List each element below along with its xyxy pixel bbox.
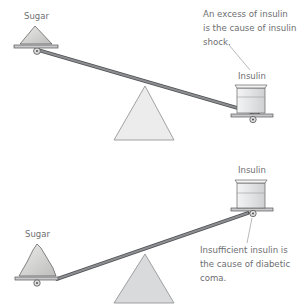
annotation-line: is the cause of insulin	[203, 23, 296, 33]
top-insulin-pan: Insulin	[231, 71, 273, 123]
annotation-line: shock.	[203, 37, 231, 47]
annotation-line: Insufficient insulin is	[200, 245, 288, 255]
bottom-fulcrum	[114, 254, 174, 303]
top-annotation: An excess of insulin is the cause of ins…	[203, 9, 296, 70]
insulin-sugar-balance-diagram: Sugar Insulin An excess of insulin is th…	[0, 0, 299, 307]
top-fulcrum	[114, 86, 174, 140]
top-scale: Sugar Insulin An excess of insulin is th…	[14, 9, 296, 140]
annotation-line: coma.	[200, 273, 226, 283]
annotation-line: An excess of insulin	[203, 9, 288, 19]
top-sugar-pan: Sugar	[14, 11, 58, 54]
bottom-sugar-pan: Sugar	[15, 229, 58, 286]
top-sugar-label: Sugar	[24, 11, 49, 21]
sugar-pile-icon	[20, 26, 52, 44]
annotation-line: the cause of diabetic	[200, 259, 290, 269]
insulin-beaker-icon	[235, 180, 267, 208]
leader-line	[247, 218, 252, 243]
bottom-annotation: Insufficient insulin is the cause of dia…	[200, 218, 290, 283]
bottom-insulin-label: Insulin	[238, 165, 266, 175]
bottom-insulin-pan: Insulin	[231, 165, 273, 217]
sugar-pile-icon	[19, 244, 56, 276]
bottom-scale: Sugar Insulin Insufficient insulin is th…	[15, 165, 290, 303]
insulin-beaker-icon	[235, 85, 267, 113]
bottom-sugar-label: Sugar	[25, 229, 50, 239]
top-insulin-label: Insulin	[238, 71, 266, 81]
leader-line	[229, 45, 250, 70]
